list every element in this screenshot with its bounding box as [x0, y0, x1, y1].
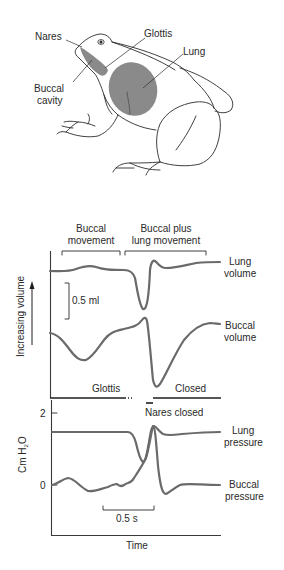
volume-scale-bar: [65, 283, 69, 319]
lung-label: Lung: [183, 46, 205, 57]
x-axis-label-time: Time: [126, 540, 148, 551]
time-scale-bar: [103, 506, 154, 510]
lung-volume-label-line2: volume: [224, 268, 257, 279]
buccal-volume-label-line1: Buccal: [225, 320, 255, 331]
volume-panel: Buccal movement Buccal plus lung movemen…: [15, 223, 257, 418]
lung-shape: [102, 56, 164, 122]
y-axis-label-pressure: Cm H2O: [17, 436, 29, 473]
closed-state-label: Closed: [175, 383, 206, 394]
frog-illustration: [57, 34, 233, 175]
lung-pressure-label-line2: pressure: [224, 437, 263, 448]
pressure-panel: 2 0 Cm H2O Lung pressure Buccal pressure…: [17, 400, 264, 551]
lung-pressure-curve: [52, 426, 220, 462]
lung-pressure-label-line1: Lung: [232, 425, 254, 436]
buccal-cavity-label-line2: cavity: [37, 95, 63, 106]
buccal-pressure-label-line2: pressure: [225, 491, 264, 502]
time-scale-label: 0.5 s: [116, 513, 138, 524]
y-axis-label-volume: Increasing volume: [15, 275, 26, 357]
buccal-plus-lung-label-line2: lung movement: [132, 235, 201, 246]
buccal-cavity-shape: [80, 47, 108, 76]
glottis-label: Glottis: [144, 28, 172, 39]
buccal-movement-bracket: [62, 251, 120, 255]
lung-volume-label-line1: Lung: [229, 256, 251, 267]
frog-ventilation-figure: Nares Glottis Lung Buccal cavity Buccal …: [0, 0, 284, 570]
buccal-pressure-label-line1: Buccal: [229, 479, 259, 490]
glottis-state-label: Glottis: [92, 383, 120, 394]
buccal-plus-lung-bracket: [125, 251, 206, 255]
y-tick-2: 2: [40, 408, 46, 419]
nares-closed-label: Nares closed: [145, 407, 203, 418]
volume-scale-label: 0.5 ml: [72, 295, 99, 306]
buccal-volume-curve: [50, 318, 220, 387]
buccal-movement-label-line1: Buccal: [76, 223, 106, 234]
buccal-pressure-curve: [52, 426, 220, 494]
buccal-volume-label-line2: volume: [224, 332, 257, 343]
buccal-movement-label-line2: movement: [68, 235, 115, 246]
arrow-up-icon: [30, 281, 35, 289]
buccal-cavity-label-line1: Buccal: [34, 83, 64, 94]
buccal-plus-lung-label-line1: Buccal plus: [140, 223, 191, 234]
y-tick-0: 0: [40, 480, 46, 491]
nares-label: Nares: [35, 31, 62, 42]
